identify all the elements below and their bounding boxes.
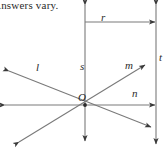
label-origin: O xyxy=(78,92,86,103)
figure-page: Answers vary. r s l m n t O xyxy=(0,0,165,148)
label-r: r xyxy=(101,12,105,23)
label-l: l xyxy=(36,62,39,73)
geometry-diagram xyxy=(0,0,165,148)
line-m xyxy=(19,65,145,142)
origin-point xyxy=(83,103,87,107)
label-s: s xyxy=(80,61,84,72)
label-t: t xyxy=(159,52,162,63)
label-m: m xyxy=(125,60,133,71)
label-n: n xyxy=(132,88,138,99)
